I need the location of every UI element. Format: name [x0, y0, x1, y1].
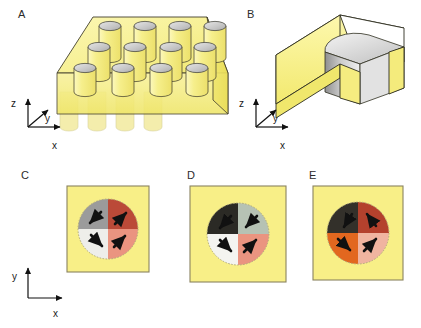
panel-c-illustration	[67, 186, 149, 272]
panel-c-disk	[78, 199, 138, 259]
figure-root: A B C D E z y x z y x y x	[0, 0, 421, 328]
pillar	[112, 63, 134, 96]
panel-e-illustration	[313, 186, 403, 280]
unit-cell-right-end	[389, 47, 404, 94]
panel-b-illustration	[276, 15, 404, 118]
panel-d-illustration	[190, 186, 286, 282]
panel-a-illustration	[57, 17, 228, 131]
pillar	[186, 63, 208, 96]
pillar	[74, 63, 96, 96]
figure-artwork	[0, 0, 421, 328]
axes-indicator-bottom-row	[28, 268, 62, 298]
pillar	[150, 63, 172, 96]
panel-e-disk	[327, 202, 389, 264]
axes-indicator-panel-a	[28, 99, 60, 127]
panel-d-disk	[207, 203, 269, 265]
